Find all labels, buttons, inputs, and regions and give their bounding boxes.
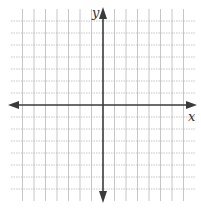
x-axis-left-arrow-icon xyxy=(8,101,19,109)
coordinate-plane xyxy=(0,0,201,212)
x-axis-label: x xyxy=(188,110,195,123)
y-axis-up-arrow-icon xyxy=(99,7,107,19)
x-axis-right-arrow-icon xyxy=(186,101,197,109)
y-axis-down-arrow-icon xyxy=(99,191,107,203)
y-axis-label: y xyxy=(92,6,99,19)
